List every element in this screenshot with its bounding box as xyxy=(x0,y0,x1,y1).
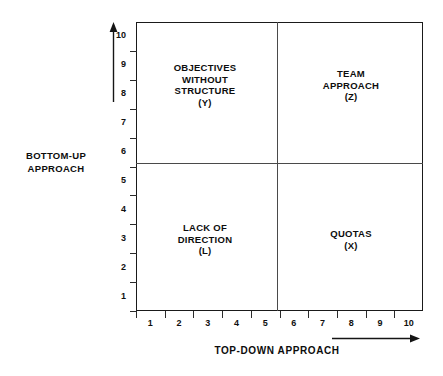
quadrant-tag: (X) xyxy=(292,240,410,252)
quadrant-line: DIRECTION xyxy=(150,234,260,246)
quadrant-divider-vertical xyxy=(277,22,278,311)
y-tick-mark xyxy=(130,167,137,168)
x-tick-mark xyxy=(366,311,367,318)
x-tick-mark xyxy=(280,311,281,318)
y-tick-label: 6 xyxy=(104,146,126,156)
x-axis-title: TOP-DOWN APPROACH xyxy=(160,345,394,356)
x-tick-label: 3 xyxy=(196,318,220,328)
quadrant-line: STRUCTURE xyxy=(150,85,260,97)
y-tick-mark xyxy=(130,80,137,81)
y-tick-label: 1 xyxy=(104,291,126,301)
y-axis-title-line1: BOTTOM-UP xyxy=(6,150,106,163)
x-tick-label: 2 xyxy=(167,318,191,328)
x-tick-label: 9 xyxy=(368,318,392,328)
quadrant-label-bottom-left: LACK OF DIRECTION (L) xyxy=(150,222,260,257)
quadrant-divider-horizontal xyxy=(136,163,423,164)
x-tick-mark xyxy=(165,311,166,318)
quadrant-label-bottom-right: QUOTAS (X) xyxy=(292,228,410,251)
y-tick-mark xyxy=(130,138,137,139)
y-tick-mark xyxy=(130,109,137,110)
quadrant-line: LACK OF xyxy=(150,222,260,234)
y-tick-mark xyxy=(130,282,137,283)
y-tick-label: 3 xyxy=(104,233,126,243)
y-axis-title-line2: APPROACH xyxy=(6,163,106,176)
arrow-right-icon xyxy=(332,333,420,344)
x-tick-label: 6 xyxy=(282,318,306,328)
x-tick-label: 1 xyxy=(138,318,162,328)
y-tick-mark xyxy=(130,195,137,196)
y-axis-title: BOTTOM-UP APPROACH xyxy=(6,150,106,175)
quadrant-line: APPROACH xyxy=(292,80,410,92)
quadrant-label-top-left: OBJECTIVES WITHOUT STRUCTURE (Y) xyxy=(150,62,260,108)
quadrant-label-top-right: TEAM APPROACH (Z) xyxy=(292,68,410,103)
x-tick-mark xyxy=(222,311,223,318)
x-tick-label: 5 xyxy=(253,318,277,328)
x-tick-mark xyxy=(136,311,137,318)
y-tick-label: 7 xyxy=(104,117,126,127)
x-tick-mark xyxy=(308,311,309,318)
quadrant-line: OBJECTIVES xyxy=(150,62,260,74)
x-tick-label: 7 xyxy=(311,318,335,328)
x-tick-mark xyxy=(193,311,194,318)
quadrant-line: WITHOUT xyxy=(150,74,260,86)
x-tick-label: 4 xyxy=(224,318,248,328)
x-tick-mark xyxy=(251,311,252,318)
y-tick-mark xyxy=(130,224,137,225)
x-tick-label: 8 xyxy=(339,318,363,328)
arrow-up-icon xyxy=(108,22,119,102)
y-tick-label: 4 xyxy=(104,204,126,214)
quadrant-tag: (Z) xyxy=(292,91,410,103)
y-tick-mark xyxy=(130,51,137,52)
quadrant-line: QUOTAS xyxy=(292,228,410,240)
quadrant-line: TEAM xyxy=(292,68,410,80)
x-tick-label: 10 xyxy=(397,318,421,328)
y-tick-mark xyxy=(130,253,137,254)
quadrant-chart-figure: 12345678910 12345678910 OBJECTIVES WITHO… xyxy=(0,0,443,376)
y-tick-label: 5 xyxy=(104,175,126,185)
x-tick-mark xyxy=(337,311,338,318)
quadrant-tag: (Y) xyxy=(150,97,260,109)
x-tick-mark xyxy=(394,311,395,318)
quadrant-tag: (L) xyxy=(150,245,260,257)
y-tick-label: 2 xyxy=(104,262,126,272)
